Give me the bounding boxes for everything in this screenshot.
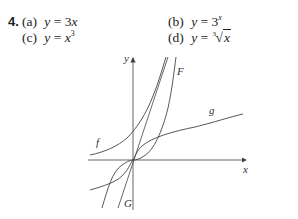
curve-f [90, 57, 166, 155]
curve-g [90, 114, 243, 190]
curve-label-F: F [176, 65, 184, 77]
x-axis-label: x [242, 163, 248, 175]
curve-label-g: g [209, 104, 215, 116]
curve-label-G: G [124, 197, 132, 209]
function-graph: y x F g f G [0, 0, 298, 219]
y-axis-label: y [123, 52, 129, 64]
curve-label-f: f [96, 136, 101, 148]
curve-F [102, 57, 176, 208]
